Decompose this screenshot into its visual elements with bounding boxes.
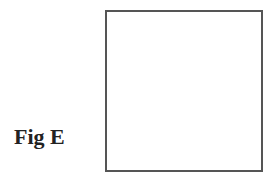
figure-label: Fig E xyxy=(14,124,65,150)
empty-figure-box xyxy=(105,10,263,172)
